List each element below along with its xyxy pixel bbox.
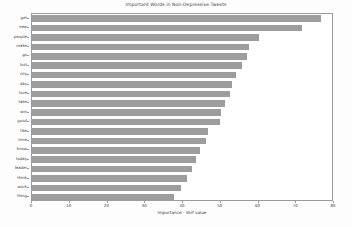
bar-row: [32, 91, 332, 98]
y-axis: getnewpeoplemakegolostcitydaylovetakewin…: [0, 13, 29, 201]
y-axis-tick-label: new: [19, 25, 27, 29]
y-axis-tick-mark: [27, 159, 29, 160]
x-axis-tick-label: 60: [255, 204, 260, 208]
x-axis-tick-label: 20: [104, 204, 109, 208]
bar: [32, 53, 247, 60]
x-axis-tick-label: 50: [217, 204, 222, 208]
y-axis-tick-label: today: [16, 157, 27, 161]
bar: [32, 156, 196, 163]
bar: [32, 100, 225, 107]
bar-row: [32, 109, 332, 116]
y-axis-tick-mark: [27, 65, 29, 66]
x-axis-tick-label: 0: [30, 204, 32, 208]
y-axis-tick-label: lost: [20, 63, 27, 67]
x-axis-label: Importance - Shif value: [31, 210, 333, 215]
bar-row: [32, 156, 332, 163]
y-axis-tick-mark: [27, 84, 29, 85]
y-axis-tick-label: work: [18, 185, 27, 189]
bar-row: [32, 44, 332, 51]
y-axis-tick-mark: [27, 187, 29, 188]
y-axis-tick-mark: [27, 102, 29, 103]
bar-row: [32, 175, 332, 182]
y-axis-tick-label: know: [17, 147, 27, 151]
bar: [32, 194, 174, 201]
x-axis-tick-label: 10: [66, 204, 71, 208]
y-axis-tick-mark: [27, 168, 29, 169]
y-axis-tick-label: make: [16, 44, 27, 48]
bar-row: [32, 166, 332, 173]
bar-row: [32, 34, 332, 41]
bar-row: [32, 72, 332, 79]
bars-layer: [32, 14, 332, 200]
bar-row: [32, 62, 332, 69]
bar-row: [32, 194, 332, 201]
bar-row: [32, 81, 332, 88]
y-axis-tick-label: take: [19, 100, 27, 104]
y-axis-tick-label: like: [20, 129, 27, 133]
y-axis-tick-mark: [27, 46, 29, 47]
bar: [32, 109, 221, 116]
y-axis-tick-label: thing: [17, 194, 27, 198]
bar: [32, 15, 321, 22]
y-axis-tick-mark: [27, 37, 29, 38]
y-axis-tick-label: go: [22, 53, 27, 57]
y-axis-tick-label: get: [21, 16, 27, 20]
bar-row: [32, 147, 332, 154]
bar-row: [32, 185, 332, 192]
y-axis-tick-mark: [27, 178, 29, 179]
y-axis-tick-mark: [27, 55, 29, 56]
bar-row: [32, 128, 332, 135]
y-axis-tick-label: people: [14, 35, 27, 39]
bar: [32, 147, 200, 154]
y-axis-tick-label: time: [18, 138, 27, 142]
bar: [32, 91, 230, 98]
chart-title: Important Words in Non-Depressive Tweets: [0, 2, 352, 7]
bar: [32, 25, 302, 32]
bar: [32, 175, 187, 182]
bar: [32, 62, 242, 69]
y-axis-tick-label: city: [20, 72, 27, 76]
y-axis-tick-mark: [27, 149, 29, 150]
y-axis-tick-mark: [27, 112, 29, 113]
bar: [32, 34, 259, 41]
bar: [32, 166, 192, 173]
y-axis-tick-label: win: [20, 110, 27, 114]
bar-row: [32, 53, 332, 60]
y-axis-tick-mark: [27, 27, 29, 28]
bar: [32, 138, 206, 145]
y-axis-tick-label: day: [20, 82, 27, 86]
y-axis-tick-label: leader: [15, 166, 27, 170]
bar: [32, 72, 236, 79]
y-axis-tick-mark: [27, 121, 29, 122]
bar: [32, 128, 208, 135]
bar-row: [32, 15, 332, 22]
y-axis-tick-mark: [27, 140, 29, 141]
bar: [32, 81, 232, 88]
x-axis-tick-label: 30: [142, 204, 147, 208]
bar-row: [32, 25, 332, 32]
bar-row: [32, 100, 332, 107]
y-axis-tick-label: love: [19, 91, 27, 95]
chart-figure: Important Words in Non-Depressive Tweets…: [0, 0, 352, 227]
bar: [32, 44, 249, 51]
y-axis-tick-mark: [27, 18, 29, 19]
y-axis-tick-mark: [27, 131, 29, 132]
y-axis-tick-label: good: [17, 119, 27, 123]
x-axis-tick-label: 70: [293, 204, 298, 208]
plot-area: [31, 13, 333, 201]
x-axis-tick-label: 80: [331, 204, 336, 208]
x-axis-tick-label: 40: [180, 204, 185, 208]
bar-row: [32, 119, 332, 126]
y-axis-tick-mark: [27, 196, 29, 197]
y-axis-tick-mark: [27, 74, 29, 75]
y-axis-tick-label: think: [17, 176, 27, 180]
y-axis-tick-mark: [27, 93, 29, 94]
bar-row: [32, 138, 332, 145]
bar: [32, 119, 220, 126]
bar: [32, 185, 181, 192]
